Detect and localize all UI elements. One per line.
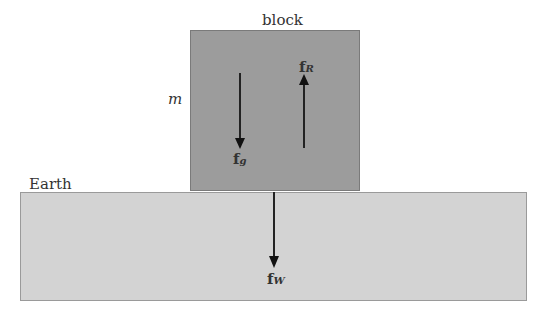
force-fR-label: fR (299, 58, 314, 76)
force-arrows (0, 0, 544, 316)
force-fW-label: fW (267, 270, 285, 288)
force-fg-label: fg (233, 150, 246, 168)
